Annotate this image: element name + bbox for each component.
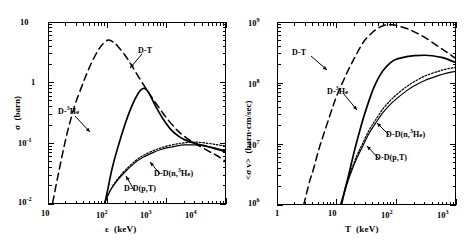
xtick-label: 103 <box>437 208 449 220</box>
xtick-label: 1 <box>275 208 279 218</box>
xtick-label: 103 <box>140 208 152 220</box>
curve-label-dt: D-T <box>138 46 152 55</box>
ytick-label: 106 <box>248 196 260 208</box>
panel-cross-section: 10 1 10-1 10-2 10 102 103 104 σ (barn) ε… <box>0 0 240 244</box>
curve-label-d3he: D-3He <box>327 85 348 96</box>
ytick-label: 10-1 <box>18 136 32 148</box>
xtick-label: 104 <box>185 208 197 220</box>
curve-label-ddpt: D-D(p,T) <box>375 153 407 162</box>
figure-root: 10 1 10-1 10-2 10 102 103 104 σ (barn) ε… <box>0 0 475 244</box>
x-axis-title-reactivity: T (keV) <box>345 224 379 234</box>
ytick-label: 10-2 <box>18 195 32 207</box>
curve-label-ddn3he: D-D(n,3He) <box>386 128 425 139</box>
ytick-label: 109 <box>248 16 260 28</box>
panel-reactivity: 109 108 107 106 1 10 102 103 <σ v> (barn… <box>235 0 475 244</box>
curve-label-dt: D-T <box>292 48 306 57</box>
ytick-label: 1 <box>31 77 35 87</box>
xtick-label: 102 <box>381 208 393 220</box>
ytick-label: 10 <box>20 17 29 27</box>
xtick-label: 102 <box>96 208 108 220</box>
curve-label-ddpt: D-D(p,T) <box>124 184 156 193</box>
curve-label-d3he: D-3He <box>58 105 79 116</box>
y-axis-title-reactivity: <σ v> (barn·cm/sec) <box>243 101 253 180</box>
xtick-label: 10 <box>41 208 50 218</box>
x-axis-title-cross-section: ε (keV) <box>105 224 136 234</box>
y-axis-title-cross-section: σ (barn) <box>12 96 22 130</box>
curve-label-ddn3he: D-D(n,3He) <box>154 167 193 178</box>
ytick-label: 108 <box>248 77 260 89</box>
xtick-label: 10 <box>328 208 337 218</box>
